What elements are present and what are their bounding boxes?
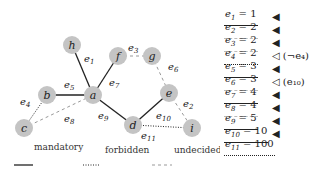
- edge-label-e1: e1: [84, 53, 94, 66]
- filled-triangle-icon: ◀: [272, 36, 280, 49]
- hollow-triangle-icon: ◁ (e₁₀): [272, 75, 305, 88]
- filled-triangle-icon: ◀: [272, 114, 280, 127]
- edge-label-e8: e8: [64, 113, 75, 126]
- edge-label-e4: e4: [20, 96, 30, 109]
- filled-triangle-icon: ◀: [272, 88, 280, 101]
- edge-label-e5: e5: [64, 79, 75, 92]
- legend-mandatory-label: mandatory: [34, 142, 84, 152]
- node-f: f: [109, 47, 127, 65]
- edge-weight-forbidden: e11 = 100: [224, 137, 275, 156]
- edge-label-e2: e2: [183, 98, 194, 111]
- node-label: e: [166, 87, 173, 100]
- legend: mandatory forbidden undecided: [14, 142, 220, 165]
- filled-triangle-icon: ◀: [272, 101, 280, 114]
- filled-triangle-icon: ◀: [272, 62, 280, 75]
- edge-weight-table: e1 = 1◀e2 = 2◀e3 = 2◀e4 = 2◁ (¬e₄)e5 = 3…: [224, 10, 275, 153]
- node-g: g: [143, 47, 161, 65]
- edge-label-e7: e7: [109, 77, 120, 90]
- node-c: c: [15, 119, 33, 137]
- node-label: d: [129, 119, 136, 132]
- node-b: b: [38, 86, 56, 104]
- graph-diagram: hfgbaecdi e1e2e3e4e5e6e7e8e9e10e11 manda…: [0, 0, 220, 180]
- filled-triangle-icon: ◀: [272, 10, 280, 23]
- edge-e8-undecided: [24, 95, 93, 128]
- edge-label-e10: e10: [156, 110, 171, 123]
- table-row: e11 = 100: [224, 140, 275, 153]
- filled-triangle-icon: ◀: [272, 23, 280, 36]
- node-label: i: [190, 122, 194, 135]
- edge-label-e11: e11: [141, 130, 156, 143]
- node-label: g: [148, 50, 155, 63]
- hollow-triangle-icon: ◁ (¬e₄): [272, 49, 309, 62]
- edge-label-e3: e3: [128, 42, 139, 55]
- node-label: h: [68, 39, 75, 52]
- edge-label-e9: e9: [98, 110, 109, 123]
- node-e: e: [160, 84, 178, 102]
- legend-undecided-label: undecided: [174, 145, 220, 155]
- node-label: c: [21, 122, 27, 135]
- node-i: i: [183, 119, 201, 137]
- legend-forbidden-label: forbidden: [105, 145, 150, 155]
- node-d: d: [124, 116, 142, 134]
- node-h: h: [63, 36, 81, 54]
- node-a: a: [84, 86, 102, 104]
- node-label: b: [43, 89, 50, 102]
- node-label: a: [90, 89, 97, 102]
- edge-label-e6: e6: [168, 61, 179, 74]
